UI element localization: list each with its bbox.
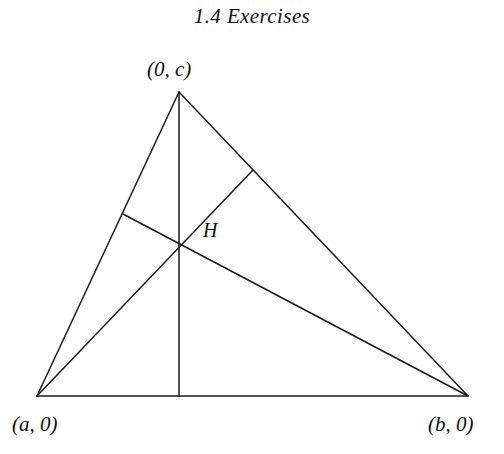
side-ac	[37, 92, 179, 396]
vertex-label-bottom-right: (b, 0)	[428, 412, 474, 437]
figure-page: 1.4 Exercises (0, c) (a, 0) (b, 0) H	[0, 0, 504, 454]
vertex-label-apex: (0, c)	[147, 57, 191, 82]
orthocenter-label: H	[203, 219, 217, 242]
triangle-diagram	[0, 0, 504, 454]
altitude-from-right-vertex	[123, 214, 468, 396]
altitude-from-left-vertex	[37, 170, 253, 396]
side-bc	[179, 92, 468, 396]
vertex-label-bottom-left: (a, 0)	[12, 412, 58, 437]
